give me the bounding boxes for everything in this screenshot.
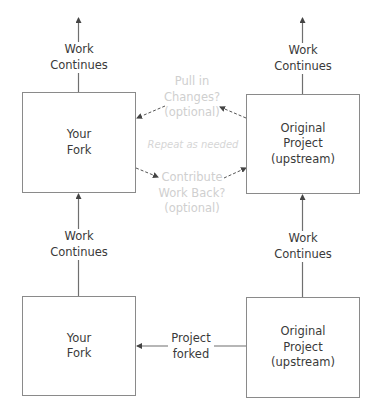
node-line: (upstream): [271, 152, 335, 168]
node-line: Original: [271, 324, 335, 340]
upstream-box-top: Original Project (upstream): [246, 94, 360, 194]
label-work-continues-right-mid: Work Continues: [268, 231, 338, 262]
label-work-continues-left-mid: Work Continues: [44, 229, 114, 260]
your-fork-box-top: Your Fork: [22, 92, 136, 193]
fork-workflow-diagram: Your Fork Original Project (upstream) Yo…: [0, 0, 380, 417]
label-pull-in-changes: Pull in Changes? (optional): [154, 74, 230, 121]
node-line: Fork: [67, 143, 92, 159]
node-line: Fork: [67, 346, 92, 362]
node-line: Original: [271, 121, 335, 137]
label-project-forked: Project forked: [168, 331, 214, 362]
node-line: Your: [67, 331, 92, 347]
node-line: Project: [271, 340, 335, 356]
label-repeat-as-needed: Repeat as needed: [146, 137, 240, 153]
node-line: (upstream): [271, 355, 335, 371]
upstream-box-bottom: Original Project (upstream): [246, 297, 360, 398]
your-fork-box-bottom: Your Fork: [22, 296, 136, 396]
label-contribute-work-back: Contribute Work Back? (optional): [154, 170, 230, 217]
label-work-continues-right-top: Work Continues: [268, 43, 338, 74]
node-line: Project: [271, 136, 335, 152]
node-line: Your: [67, 127, 92, 143]
label-work-continues-left-top: Work Continues: [44, 42, 114, 73]
